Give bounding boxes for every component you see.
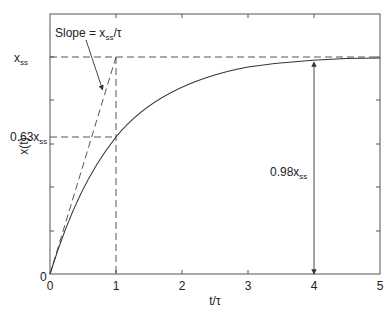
tangent-line <box>50 57 116 274</box>
step-response-chart: Slope = xss/τ xss 0.63xss 0.98xss x(t) 0… <box>0 0 392 313</box>
svg-text:3: 3 <box>245 279 252 293</box>
p98-label: 0.98xss <box>270 165 307 181</box>
svg-text:5: 5 <box>377 279 384 293</box>
slope-label: Slope = xss/τ <box>55 26 122 42</box>
x-axis-label: t/τ <box>209 294 221 308</box>
x-tick-labels: 0 1 2 3 4 5 <box>47 279 384 293</box>
xss-tick-label: xss <box>14 51 28 67</box>
plot-frame <box>50 14 380 274</box>
y-ticks <box>50 57 380 231</box>
svg-text:4: 4 <box>311 279 318 293</box>
response-curve <box>50 58 380 274</box>
svg-text:2: 2 <box>179 279 186 293</box>
svg-text:0: 0 <box>47 279 54 293</box>
y-axis-label: x(t) <box>17 137 31 154</box>
svg-text:1: 1 <box>113 279 120 293</box>
slope-arrow <box>86 40 102 88</box>
x-ticks <box>116 14 314 274</box>
reference-lines <box>50 57 380 274</box>
